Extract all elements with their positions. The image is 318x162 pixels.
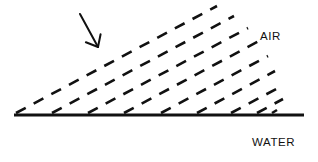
ray-6 xyxy=(197,71,275,113)
ray-diagram-figure: AIR WATER xyxy=(0,0,318,162)
ray-4 xyxy=(124,41,259,113)
ray-1 xyxy=(16,6,217,113)
water-label: WATER xyxy=(252,136,295,148)
incident-direction-arrow xyxy=(80,14,101,47)
dashed-rays-group xyxy=(16,6,283,113)
arrow-shaft xyxy=(80,14,98,47)
air-label: AIR xyxy=(260,30,281,42)
ray-9-stub xyxy=(272,110,277,113)
ray-3 xyxy=(88,28,248,113)
ray-8 xyxy=(257,99,283,113)
ray-2 xyxy=(52,16,234,113)
arrow-head-barb-1 xyxy=(98,34,101,47)
